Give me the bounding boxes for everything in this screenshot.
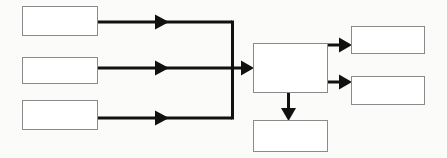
diagram-canvas	[0, 0, 447, 158]
node-input-3[interactable]	[22, 100, 98, 130]
node-output-1[interactable]	[351, 26, 425, 54]
edge-input-3-arrowhead-icon	[155, 111, 169, 126]
edge-output-2	[328, 75, 352, 90]
edge-output-3	[281, 93, 296, 121]
node-output-3[interactable]	[253, 120, 328, 152]
node-input-1[interactable]	[22, 6, 98, 36]
node-input-2[interactable]	[22, 57, 98, 84]
edge-input-2-arrowhead-icon	[155, 61, 169, 76]
edge-input-1-arrowhead-icon	[155, 15, 169, 30]
node-output-2[interactable]	[351, 76, 425, 105]
edge-input-3	[98, 111, 232, 126]
node-process[interactable]	[253, 43, 328, 93]
edge-input-1	[98, 15, 232, 30]
edge-output-1	[328, 38, 352, 53]
edge-input-2	[98, 61, 254, 76]
